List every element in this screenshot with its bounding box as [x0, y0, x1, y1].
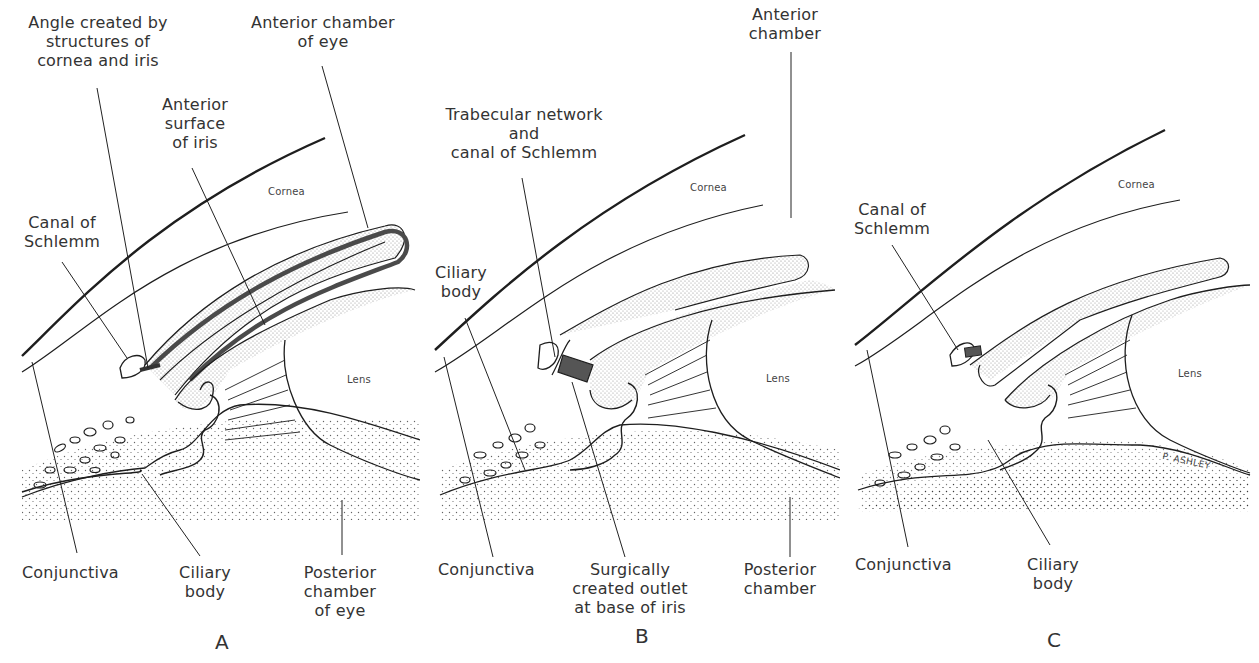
label-line: Canal of: [848, 200, 936, 219]
label-angle-cornea-iris: Angle created by structures of cornea an…: [13, 13, 183, 70]
label-line: body: [1023, 574, 1083, 593]
panel-letter-b: B: [635, 624, 649, 648]
label-line: Schlemm: [848, 219, 936, 238]
label-line: of eye: [237, 32, 409, 51]
label-ciliary-body: Ciliary body: [1023, 555, 1083, 593]
label-line: structures of: [13, 32, 183, 51]
label-line: Ciliary: [1023, 555, 1083, 574]
label-line: Posterior: [295, 563, 385, 582]
label-posterior-chamber: Posterior chamber: [740, 560, 820, 598]
label-line: Surgically: [560, 560, 700, 579]
label-line: Anterior: [150, 95, 240, 114]
label-anterior-surface-of-iris: Anterior surface of iris: [150, 95, 240, 152]
label-conjunctiva: Conjunctiva: [22, 563, 119, 582]
panel-b: Anterior chamber Trabecular network and …: [420, 0, 840, 663]
label-cornea: Cornea: [690, 182, 727, 194]
label-conjunctiva: Conjunctiva: [855, 555, 952, 574]
label-line: of iris: [150, 133, 240, 152]
label-anterior-chamber-of-eye: Anterior chamber of eye: [237, 13, 409, 51]
panel-letter-c: C: [1047, 628, 1061, 652]
label-lens: Lens: [347, 374, 371, 386]
label-cornea: Cornea: [1118, 179, 1155, 191]
label-posterior-chamber-of-eye: Posterior chamber of eye: [295, 563, 385, 620]
label-line: cornea and iris: [13, 51, 183, 70]
label-line: of eye: [295, 601, 385, 620]
panel-a: Angle created by structures of cornea an…: [0, 0, 420, 663]
label-line: chamber: [740, 24, 830, 43]
label-line: canal of Schlemm: [426, 143, 622, 162]
label-line: Posterior: [740, 560, 820, 579]
label-line: body: [432, 282, 490, 301]
label-line: Anterior chamber: [237, 13, 409, 32]
label-ciliary-body: Ciliary body: [432, 263, 490, 301]
label-line: surface: [150, 114, 240, 133]
label-line: chamber: [740, 579, 820, 598]
label-ciliary-body: Ciliary body: [172, 563, 238, 601]
label-line: Canal of: [17, 213, 107, 232]
label-lens: Lens: [1178, 368, 1202, 380]
label-line: body: [172, 582, 238, 601]
label-canal-of-schlemm: Canal of Schlemm: [848, 200, 936, 238]
label-line: created outlet: [560, 579, 700, 598]
label-surgically-created-outlet: Surgically created outlet at base of iri…: [560, 560, 700, 617]
label-line: at base of iris: [560, 598, 700, 617]
label-line: Angle created by: [13, 13, 183, 32]
label-line: chamber: [295, 582, 385, 601]
panel-c: Canal of Schlemm Cornea Lens P. ASHLEY C…: [840, 0, 1259, 663]
label-cornea: Cornea: [268, 186, 305, 198]
label-line: Ciliary: [172, 563, 238, 582]
label-trabecular-network-canal: Trabecular network and canal of Schlemm: [426, 105, 622, 162]
label-line: Schlemm: [17, 232, 107, 251]
label-canal-of-schlemm: Canal of Schlemm: [17, 213, 107, 251]
label-line: Ciliary: [432, 263, 490, 282]
label-line: Trabecular network: [426, 105, 622, 124]
label-lens: Lens: [766, 373, 790, 385]
label-conjunctiva: Conjunctiva: [438, 560, 535, 579]
label-line: Anterior: [740, 5, 830, 24]
label-anterior-chamber: Anterior chamber: [740, 5, 830, 43]
label-line: and: [426, 124, 622, 143]
panel-letter-a: A: [215, 630, 229, 654]
